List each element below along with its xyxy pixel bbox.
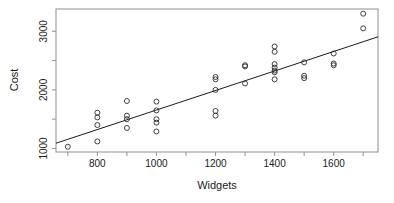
y-tick-label: 1000 (39, 137, 50, 160)
x-tick-label: 1200 (204, 158, 227, 169)
y-axis-title: Cost (8, 69, 20, 92)
y-tick-label: 2000 (39, 78, 50, 101)
plot-background (0, 0, 394, 203)
x-tick-label: 1400 (263, 158, 286, 169)
plot-canvas: 8001000120014001600 100020003000 Widgets… (0, 0, 394, 203)
scatter-plot-figure: 8001000120014001600 100020003000 Widgets… (0, 0, 394, 203)
x-axis-title: Widgets (197, 179, 237, 191)
y-axis-tick-labels: 100020003000 (39, 20, 50, 160)
y-tick-label: 3000 (39, 20, 50, 43)
x-tick-label: 1600 (323, 158, 346, 169)
x-tick-label: 800 (89, 158, 106, 169)
x-tick-label: 1000 (145, 158, 168, 169)
